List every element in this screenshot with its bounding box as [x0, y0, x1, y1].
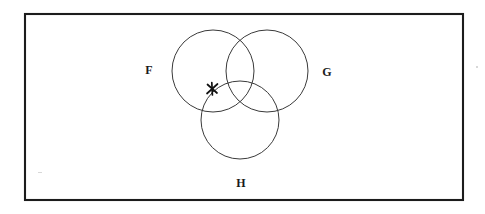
venn-diagram-canvas: F G H — [0, 0, 485, 214]
universe-rectangle — [25, 14, 463, 200]
scan-speck — [476, 66, 478, 68]
set-label-h: H — [236, 176, 246, 190]
set-label-g: G — [322, 65, 331, 79]
scan-speck — [38, 172, 42, 173]
venn-diagram-page: F G H — [0, 0, 485, 214]
set-label-f: F — [145, 63, 152, 77]
